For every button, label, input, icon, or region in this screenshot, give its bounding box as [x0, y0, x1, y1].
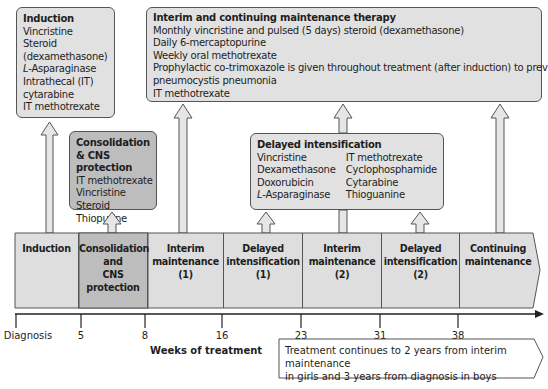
treatment-duration-note: Treatment continues to 2 years from inte… — [279, 339, 548, 388]
note-shape — [0, 0, 548, 389]
note-line-2: in girls and 3 years from diagnosis in b… — [285, 370, 542, 383]
note-line-1: Treatment continues to 2 years from inte… — [285, 344, 542, 370]
